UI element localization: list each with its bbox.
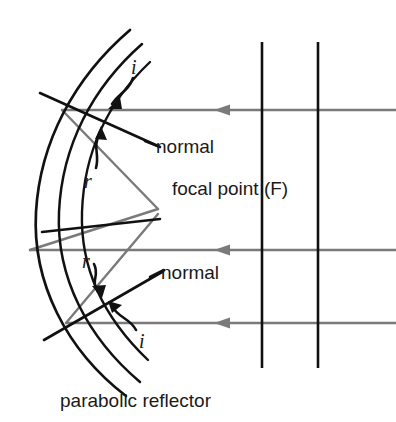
- arrowhead-top-ray: [214, 105, 230, 116]
- label-angle-r-top: r: [84, 170, 92, 193]
- label-normal-top: normal: [156, 136, 214, 158]
- arrowhead-r-top: [95, 126, 107, 140]
- reflected-ray-middle: [30, 209, 158, 250]
- label-angle-i-bottom: i: [139, 330, 145, 353]
- arrowhead-middle-ray: [214, 245, 230, 256]
- parabolic-mirror-group: [36, 30, 150, 396]
- figure-caption: parabolic reflector: [60, 390, 211, 412]
- label-focal-point: focal point (F): [172, 178, 288, 200]
- arrowhead-bottom-ray: [214, 318, 230, 329]
- parabolic-reflector-diagram: [0, 0, 396, 422]
- wavefront-group: [262, 42, 318, 368]
- ray-arrowheads: [214, 105, 230, 329]
- label-angle-i-top: i: [131, 56, 137, 79]
- annotation-arrowheads: [92, 97, 122, 313]
- label-angle-r-bottom: r: [82, 250, 90, 273]
- label-normal-bottom: normal: [161, 262, 219, 284]
- mirror-arc-middle: [59, 44, 142, 382]
